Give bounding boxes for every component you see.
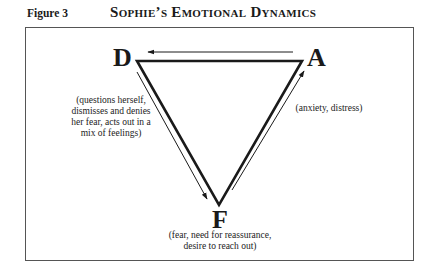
node-a-label: A [307,45,326,71]
triangle-outline [137,61,302,205]
node-d-description: (questions herself, dismisses and denies… [66,95,156,139]
node-a-description: (anxiety, distress) [289,103,369,114]
node-f-description: (fear, need for reassurance, desire to r… [160,230,280,252]
node-d-label: D [113,45,132,71]
arrow-f-to-a [232,71,304,190]
